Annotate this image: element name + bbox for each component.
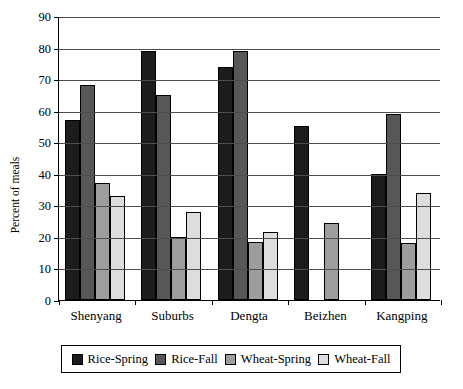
gridline xyxy=(59,143,440,144)
y-tick xyxy=(54,143,59,144)
y-tick xyxy=(54,112,59,113)
x-category-label: Kangping xyxy=(376,308,427,324)
legend-swatch-icon xyxy=(72,354,83,365)
x-tick xyxy=(212,300,213,305)
gridline xyxy=(59,49,440,50)
plot-area: 0102030405060708090 xyxy=(58,17,440,301)
bar xyxy=(248,242,263,300)
legend-label: Wheat-Spring xyxy=(241,352,311,367)
y-tick xyxy=(54,238,59,239)
bar xyxy=(186,212,201,300)
gridline xyxy=(59,17,440,18)
x-tick xyxy=(288,300,289,305)
y-tick xyxy=(54,49,59,50)
x-tick xyxy=(59,300,60,305)
legend-label: Rice-Fall xyxy=(171,352,218,367)
legend-label: Wheat-Fall xyxy=(334,352,390,367)
y-tick-label: 20 xyxy=(39,232,52,245)
y-tick-label: 30 xyxy=(39,200,52,213)
y-tick-label: 80 xyxy=(39,42,52,55)
y-axis-title: Percent of meals xyxy=(9,120,21,270)
y-tick xyxy=(54,80,59,81)
legend-item[interactable]: Rice-Fall xyxy=(155,352,218,367)
y-tick-label: 50 xyxy=(39,137,52,150)
gridline xyxy=(59,238,440,239)
bar xyxy=(263,232,278,300)
bar xyxy=(110,196,125,300)
legend-label: Rice-Spring xyxy=(88,352,148,367)
y-tick xyxy=(54,17,59,18)
y-tick xyxy=(54,269,59,270)
legend-item[interactable]: Wheat-Spring xyxy=(225,352,311,367)
gridline xyxy=(59,206,440,207)
y-tick xyxy=(54,206,59,207)
y-tick-label: 90 xyxy=(39,11,52,24)
x-tick xyxy=(365,300,366,305)
gridline xyxy=(59,269,440,270)
y-tick-label: 40 xyxy=(39,169,52,182)
gridline xyxy=(59,112,440,113)
bar xyxy=(95,183,110,300)
x-category-label: Suburbs xyxy=(151,308,194,324)
x-tick xyxy=(135,300,136,305)
bar xyxy=(294,126,309,300)
legend-item[interactable]: Wheat-Fall xyxy=(318,352,390,367)
x-category-label: Dengta xyxy=(230,308,268,324)
x-tick xyxy=(441,300,442,305)
legend-swatch-icon xyxy=(318,354,329,365)
bar xyxy=(416,193,431,300)
bar xyxy=(401,243,416,300)
bar xyxy=(324,223,339,300)
bar xyxy=(218,67,233,301)
bars-layer xyxy=(59,17,440,300)
legend-item[interactable]: Rice-Spring xyxy=(72,352,148,367)
y-tick xyxy=(54,175,59,176)
bar xyxy=(171,237,186,300)
chart-legend: Rice-SpringRice-FallWheat-SpringWheat-Fa… xyxy=(61,345,401,373)
y-tick-label: 0 xyxy=(45,295,51,308)
bar xyxy=(65,120,80,300)
y-tick-label: 60 xyxy=(39,105,52,118)
gridline xyxy=(59,175,440,176)
gridline xyxy=(59,80,440,81)
y-tick-label: 10 xyxy=(39,263,52,276)
legend-swatch-icon xyxy=(155,354,166,365)
chart-canvas: Percent of meals 0102030405060708090 She… xyxy=(0,0,463,389)
x-category-label: Beizhen xyxy=(304,308,347,324)
x-category-label: Shenyang xyxy=(71,308,122,324)
legend-swatch-icon xyxy=(225,354,236,365)
y-tick-label: 70 xyxy=(39,74,52,87)
bar xyxy=(80,85,95,300)
